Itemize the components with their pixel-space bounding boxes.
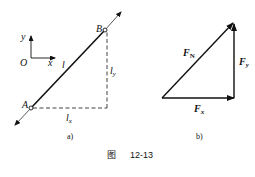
point-b-label: B — [96, 23, 102, 34]
panel-a-label: a) — [67, 132, 74, 141]
panel-b-label: b) — [196, 132, 203, 141]
x-axis-label: x — [47, 57, 53, 68]
point-a-label: A — [21, 99, 29, 110]
lx-label: lx — [66, 112, 73, 125]
joint-a — [29, 106, 33, 110]
y-axis-label: y — [20, 31, 26, 42]
panel-a-diagram: y O x A B l lx ly — [15, 12, 121, 125]
fx-label: Fx — [193, 103, 205, 116]
fn-vector — [162, 23, 233, 98]
figure-caption-prefix: 图 — [107, 150, 116, 160]
joint-b — [103, 28, 107, 32]
bar-length-label: l — [62, 59, 65, 70]
origin-label: O — [20, 57, 27, 68]
bar-extension-upper-arrow — [105, 12, 121, 30]
figure-canvas: y O x A B l lx ly FN Fy Fx a) b) 图 12-13 — [0, 0, 255, 177]
fy-label: Fy — [238, 56, 250, 69]
figure-caption-number: 12-13 — [130, 150, 153, 160]
bar-extension-lower-arrow — [15, 108, 31, 125]
fn-label: FN — [182, 47, 195, 60]
panel-b-diagram: FN Fy Fx — [162, 23, 250, 116]
ly-label: ly — [110, 65, 117, 78]
coordinate-axes: y O x — [20, 31, 55, 68]
bar-ab — [31, 30, 105, 108]
